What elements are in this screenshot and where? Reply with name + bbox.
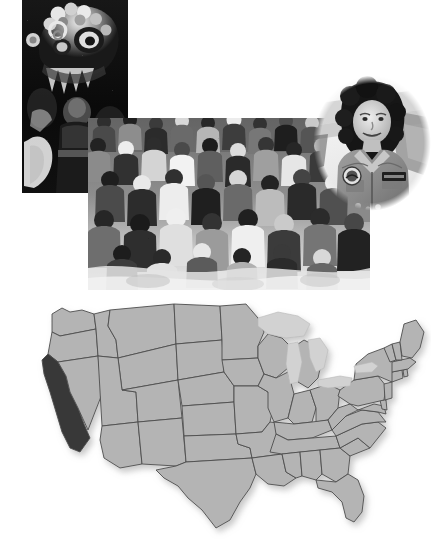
us-map-svg[interactable] bbox=[6, 296, 431, 540]
state-new-jersey[interactable] bbox=[384, 382, 392, 400]
state-kansas[interactable] bbox=[182, 402, 236, 436]
united-states-map[interactable] bbox=[6, 296, 431, 540]
astronaut-image bbox=[312, 74, 432, 212]
astronaut-portrait-photo bbox=[312, 74, 432, 212]
state-alabama[interactable] bbox=[300, 450, 322, 480]
lake-superior bbox=[258, 312, 310, 338]
lake-erie bbox=[318, 376, 352, 388]
state-minnesota[interactable] bbox=[220, 304, 264, 360]
state-new-mexico[interactable] bbox=[138, 418, 186, 466]
state-texas[interactable] bbox=[156, 458, 256, 528]
collage-page bbox=[0, 0, 445, 545]
state-arizona[interactable] bbox=[100, 422, 142, 468]
state-maine[interactable] bbox=[400, 320, 424, 358]
map-states-group bbox=[42, 304, 424, 528]
state-florida[interactable] bbox=[316, 474, 364, 522]
state-north-dakota[interactable] bbox=[174, 304, 222, 344]
